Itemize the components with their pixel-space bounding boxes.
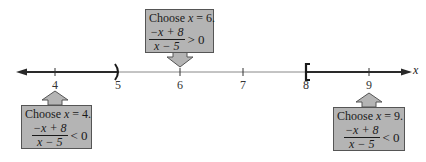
tick-label: 4 bbox=[52, 78, 58, 93]
choose-suffix: = 9. bbox=[381, 109, 403, 123]
right-arrow-icon bbox=[401, 69, 412, 76]
numerator: −x + 8 bbox=[32, 122, 68, 136]
denominator: x − 5 bbox=[37, 136, 62, 149]
fraction: −x + 8 x − 5 bbox=[344, 124, 380, 151]
denominator: x − 5 bbox=[154, 40, 179, 53]
choose-suffix: = 6. bbox=[193, 11, 215, 25]
choose-prefix: Choose bbox=[337, 109, 376, 123]
tick-label: 9 bbox=[366, 78, 372, 93]
up-arrow-icon bbox=[356, 93, 382, 107]
inequality-sign: < 0 bbox=[71, 129, 88, 142]
numerator: −x + 8 bbox=[344, 124, 380, 138]
up-arrow-icon bbox=[42, 91, 68, 105]
denominator: x − 5 bbox=[349, 138, 374, 151]
inequality-expression: −x + 8 x − 5 < 0 bbox=[337, 124, 401, 151]
fraction: −x + 8 x − 5 bbox=[32, 122, 68, 149]
fraction: −x + 8 x − 5 bbox=[149, 26, 185, 53]
tick-label: 6 bbox=[177, 78, 183, 93]
test-point-callout-4: Choose x = 4. −x + 8 x − 5 < 0 bbox=[21, 105, 92, 149]
choose-text: Choose x = 6. bbox=[149, 12, 210, 25]
choose-prefix: Choose bbox=[25, 107, 64, 121]
choose-text: Choose x = 9. bbox=[337, 110, 401, 123]
axis-variable-label: x bbox=[413, 63, 418, 78]
tick-label: 7 bbox=[240, 78, 246, 93]
choose-text: Choose x = 4. bbox=[25, 108, 88, 121]
tick-label: 5 bbox=[115, 78, 121, 93]
choose-prefix: Choose bbox=[149, 11, 188, 25]
test-point-callout-6: Choose x = 6. −x + 8 x − 5 > 0 bbox=[145, 9, 214, 53]
down-arrow-icon bbox=[167, 52, 193, 67]
numerator: −x + 8 bbox=[149, 26, 185, 40]
tick-label: 8 bbox=[303, 78, 309, 93]
inequality-expression: −x + 8 x − 5 > 0 bbox=[149, 26, 210, 53]
inequality-sign: > 0 bbox=[188, 33, 205, 46]
left-arrow-icon bbox=[16, 69, 27, 76]
choose-suffix: = 4. bbox=[69, 107, 91, 121]
inequality-expression: −x + 8 x − 5 < 0 bbox=[25, 122, 88, 149]
inequality-sign: < 0 bbox=[383, 131, 400, 144]
test-point-callout-9: Choose x = 9. −x + 8 x − 5 < 0 bbox=[333, 107, 405, 151]
